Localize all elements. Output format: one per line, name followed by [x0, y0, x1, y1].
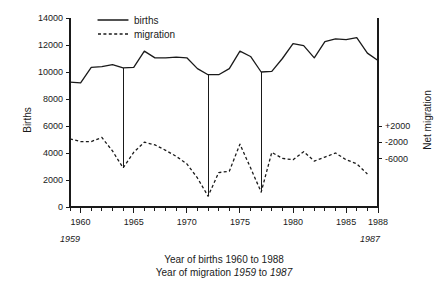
y-axis-left-ticks: 02000400060008000100001200014000: [38, 13, 70, 212]
x-tick-label: 1970: [177, 217, 197, 227]
chart-container: 02000400060008000100001200014000 +2000-2…: [0, 0, 446, 287]
x-tick-label: 1960: [71, 217, 91, 227]
series-line-births: [70, 38, 378, 83]
y-tick-label-left: 0: [58, 202, 63, 212]
y-tick-label-right: -2000: [385, 137, 408, 147]
y-tick-label-right: +2000: [385, 121, 410, 131]
caption-migration-prefix: Year of migration: [156, 267, 234, 278]
y-tick-label-right: -6000: [385, 154, 408, 164]
y-axis-right-title: Net migration: [422, 90, 433, 149]
births-migration-line-chart: 02000400060008000100001200014000 +2000-2…: [0, 0, 446, 287]
census-connector-lines: [123, 68, 261, 196]
y-tick-label-left: 2000: [43, 175, 63, 185]
x-tick-label: 1965: [124, 217, 144, 227]
x-axis-ticks: 1960196519701975198019851988: [70, 207, 388, 227]
axes-group: [70, 18, 378, 207]
legend-label-births: births: [134, 15, 158, 26]
y-tick-label-left: 14000: [38, 13, 63, 23]
x-tick-label: 1985: [336, 217, 356, 227]
y-axis-right-ticks: +2000-2000-6000: [378, 121, 410, 163]
x-tick-label: 1988: [368, 217, 388, 227]
caption-line-migration: Year of migration 1959 to 1987: [156, 267, 293, 278]
caption-line-births: Year of births 1960 to 1988: [164, 254, 284, 265]
caption-migration-joiner: to: [256, 267, 270, 278]
x-tick-label: 1975: [230, 217, 250, 227]
legend-label-migration: migration: [134, 29, 175, 40]
y-axis-left-title: Births: [22, 107, 33, 133]
series-line-migration: [70, 137, 367, 196]
y-tick-label-left: 4000: [43, 148, 63, 158]
y-tick-label-left: 6000: [43, 121, 63, 131]
y-tick-label-left: 8000: [43, 94, 63, 104]
caption-migration-start-year: 1959: [234, 267, 257, 278]
legend: births migration: [98, 15, 175, 40]
y-tick-label-left: 12000: [38, 40, 63, 50]
caption-block: Year of births 1960 to 1988 Year of migr…: [156, 254, 293, 278]
x-axis-left-edge-label: 1959: [60, 234, 80, 244]
x-tick-label: 1980: [283, 217, 303, 227]
y-tick-label-left: 10000: [38, 67, 63, 77]
x-axis-right-edge-label: 1987: [360, 234, 381, 244]
series-group: [70, 38, 378, 197]
caption-migration-end-year: 1987: [270, 267, 293, 278]
